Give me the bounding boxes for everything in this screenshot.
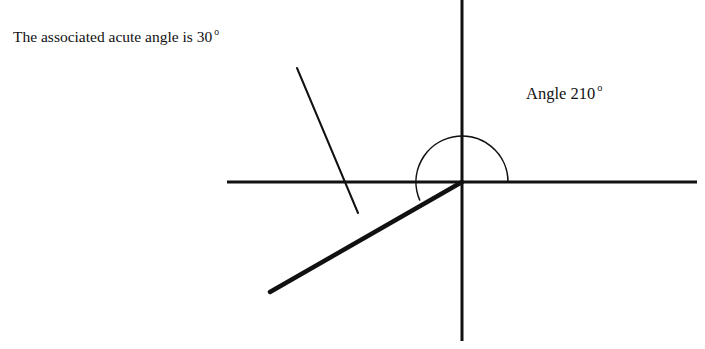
terminal-ray <box>270 182 462 292</box>
diagram-canvas: The associated acute angle is 30o Angle … <box>0 0 705 349</box>
leader-line <box>297 68 358 213</box>
angle-label: Angle 210o <box>526 83 602 103</box>
degree-symbol-icon: o <box>212 26 219 37</box>
acute-angle-note-text: The associated acute angle is 30 <box>13 28 212 45</box>
angle-diagram <box>0 0 705 349</box>
acute-angle-note: The associated acute angle is 30o <box>13 28 219 45</box>
angle-label-text: Angle 210 <box>526 84 595 103</box>
degree-symbol-icon: o <box>595 82 602 93</box>
